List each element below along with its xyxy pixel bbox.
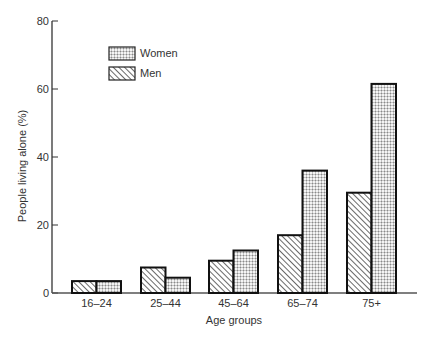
bar-group: 16–24 xyxy=(72,281,121,309)
legend-item-men: Men xyxy=(109,67,161,80)
legend-label: Women xyxy=(140,47,178,59)
y-tick-label: 60 xyxy=(37,83,49,95)
x-tick-label: 45–64 xyxy=(218,297,249,309)
y-axis-title: People living alone (%) xyxy=(16,110,28,223)
bar-group: 65–74 xyxy=(278,171,327,309)
bar-women xyxy=(234,251,259,294)
legend-swatch xyxy=(109,47,135,60)
bars: 16–2425–4445–6465–7475+ xyxy=(72,84,396,309)
y-tick-label: 80 xyxy=(37,15,49,27)
bar-women xyxy=(166,278,191,293)
legend-item-women: Women xyxy=(109,47,178,60)
bar-men xyxy=(72,281,97,293)
bar-women xyxy=(303,171,328,293)
x-tick-label: 65–74 xyxy=(287,297,318,309)
bar-group: 75+ xyxy=(347,84,396,309)
y-tick-label: 20 xyxy=(37,219,49,231)
bar-women xyxy=(97,281,122,293)
legend: WomenMen xyxy=(109,47,178,80)
bar-men xyxy=(209,261,234,293)
y-axis: 020406080 xyxy=(37,15,58,299)
bar-chart: 020406080 16–2425–4445–6465–7475+ WomenM… xyxy=(0,0,434,339)
x-tick-label: 75+ xyxy=(362,297,381,309)
legend-label: Men xyxy=(140,67,161,79)
x-tick-label: 16–24 xyxy=(81,297,112,309)
legend-swatch xyxy=(109,67,135,80)
bar-men xyxy=(278,235,303,293)
x-tick-label: 25–44 xyxy=(150,297,181,309)
bar-group: 45–64 xyxy=(209,251,258,310)
bar-men xyxy=(141,268,166,294)
bar-women xyxy=(372,84,397,293)
x-axis-title: Age groups xyxy=(206,314,263,326)
y-tick-label: 0 xyxy=(43,287,49,299)
y-tick-label: 40 xyxy=(37,151,49,163)
bar-group: 25–44 xyxy=(141,268,190,310)
bar-men xyxy=(347,193,372,293)
